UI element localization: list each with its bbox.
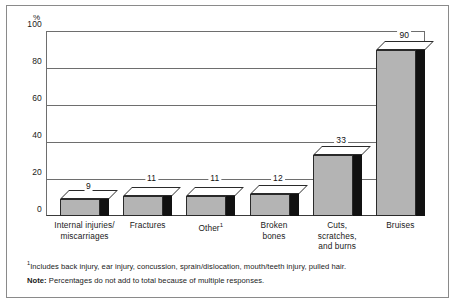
y-tick-40: 40 <box>32 130 42 140</box>
y-tick-20: 20 <box>32 167 42 177</box>
bar-6 <box>376 50 416 217</box>
bar-side-face <box>353 155 362 216</box>
y-tick-80: 80 <box>32 56 42 66</box>
category-label-6: Bruises <box>360 220 441 231</box>
gridline-20 <box>46 179 425 180</box>
bar-top-face <box>123 187 181 196</box>
bar-4 <box>250 194 290 216</box>
value-label-2: 11 <box>145 173 158 183</box>
value-label-3: 11 <box>208 173 221 183</box>
bar-5 <box>313 155 353 216</box>
bar-top-face <box>376 41 434 50</box>
note-label: Note: <box>27 276 47 285</box>
bar-1 <box>60 199 100 216</box>
bar-top-face <box>313 146 371 155</box>
bar-side-face <box>290 194 299 216</box>
bar-3 <box>186 196 226 216</box>
chart-figure: % 100 80 60 40 20 0 91111123390 Internal… <box>0 0 455 304</box>
bar-front-face <box>313 155 353 216</box>
bar-top-face <box>60 190 118 199</box>
bar-front-face <box>60 199 100 216</box>
gridline-80 <box>46 68 425 69</box>
bar-front-face <box>250 194 290 216</box>
bar-side-face <box>100 199 109 216</box>
gridline-60 <box>46 105 425 106</box>
bar-2 <box>123 196 163 216</box>
bar-front-face <box>186 196 226 216</box>
bar-top-face <box>186 187 244 196</box>
bar-side-face <box>226 196 235 216</box>
bar-front-face <box>376 50 416 217</box>
y-tick-60: 60 <box>32 93 42 103</box>
footnote-includes: 1Includes back injury, ear injury, concu… <box>27 258 427 272</box>
gridline-40 <box>46 142 425 143</box>
value-label-6: 90 <box>397 30 411 40</box>
bar-side-face <box>163 196 172 216</box>
footnotes: 1Includes back injury, ear injury, concu… <box>27 258 427 286</box>
bar-top-face <box>250 185 308 194</box>
y-axis: 100 80 60 40 20 0 <box>14 24 46 224</box>
y-tick-100: 100 <box>27 19 42 29</box>
bar-side-face <box>416 50 425 217</box>
bar-front-face <box>123 196 163 216</box>
plot-area: 91111123390 <box>46 31 425 216</box>
note-text: Percentages do not add to total because … <box>49 276 264 285</box>
value-label-4: 12 <box>271 173 285 183</box>
note-line: Note: Percentages do not add to total be… <box>27 275 427 286</box>
footnote-text: Includes back injury, ear injury, concus… <box>30 262 346 271</box>
value-label-1: 9 <box>84 181 93 191</box>
value-label-5: 33 <box>334 135 348 145</box>
y-tick-0: 0 <box>37 204 42 214</box>
category-footnote-mark: 1 <box>220 222 223 228</box>
